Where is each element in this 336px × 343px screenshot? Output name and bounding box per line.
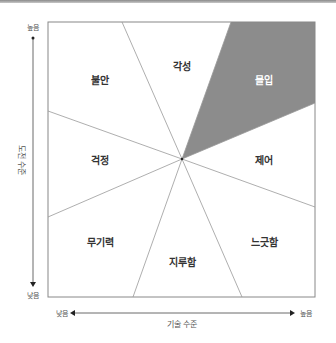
region-label-arousal: 각성 bbox=[173, 60, 191, 72]
x-axis-high-label: 높음 bbox=[300, 310, 313, 318]
region-label-apathy: 무기력 bbox=[87, 236, 114, 248]
region-label-flow: 몰입 bbox=[255, 74, 273, 86]
region-label-control: 제어 bbox=[255, 154, 273, 166]
y-axis-low-label: 낮음 bbox=[27, 291, 40, 300]
y-axis-top-arrow-icon bbox=[32, 37, 35, 40]
region-label-boredom: 지루함 bbox=[169, 256, 197, 268]
flow-region bbox=[182, 22, 315, 159]
y-axis-bottom-arrow-icon bbox=[30, 282, 36, 287]
flow-diagram: 불안 각성 몰입 걱정 제어 무기력 지루함 느긋함 높음 낮음 도전 수준 낮… bbox=[0, 0, 336, 343]
region-label-relaxation: 느긋함 bbox=[251, 236, 279, 248]
center-point bbox=[181, 158, 183, 160]
y-axis-title: 도전 수준 bbox=[17, 145, 27, 176]
region-label-worry: 걱정 bbox=[91, 154, 109, 166]
x-axis-left-arrow-icon bbox=[70, 310, 75, 316]
x-axis-right-arrow-icon bbox=[290, 310, 295, 316]
x-axis-title: 기술 수준 bbox=[167, 319, 198, 329]
y-axis-high-label: 높음 bbox=[27, 24, 40, 32]
region-label-anxiety: 불안 bbox=[91, 74, 110, 86]
x-axis-low-label: 낮음 bbox=[56, 309, 69, 318]
